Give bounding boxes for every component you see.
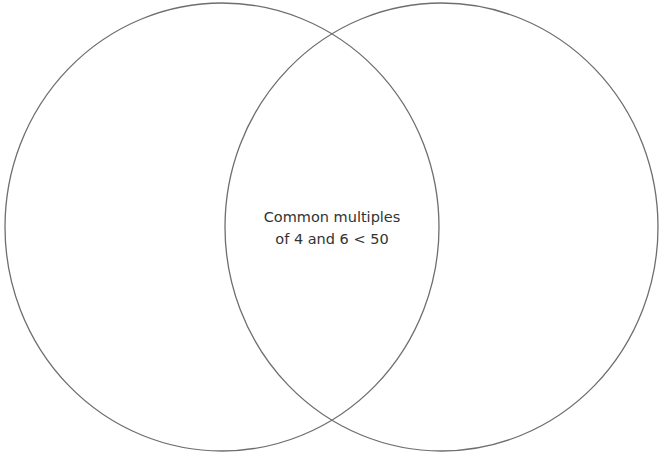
intersection-label: Common multiples of 4 and 6 < 50	[232, 206, 432, 250]
intersection-label-line1: Common multiples	[232, 206, 432, 228]
intersection-label-line2: of 4 and 6 < 50	[232, 228, 432, 250]
